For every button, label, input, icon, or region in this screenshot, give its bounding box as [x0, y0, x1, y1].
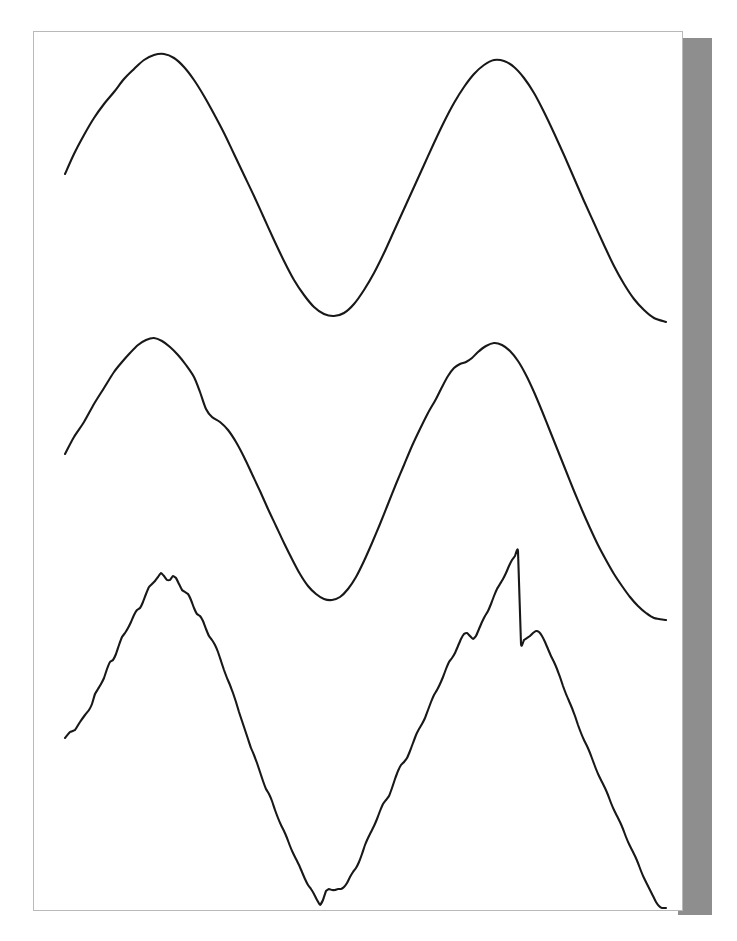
- figure-frame: [33, 31, 683, 911]
- waveform-moderately-rough-sine: [65, 338, 666, 620]
- waveform-smooth-sine: [65, 54, 666, 322]
- waveform-plot-canvas: [34, 32, 682, 910]
- scanned-page: [0, 0, 737, 941]
- waveform-highly-rough-sine: [65, 549, 666, 908]
- scan-footer-text: [36, 928, 456, 940]
- page-edge-shadow: [678, 38, 712, 915]
